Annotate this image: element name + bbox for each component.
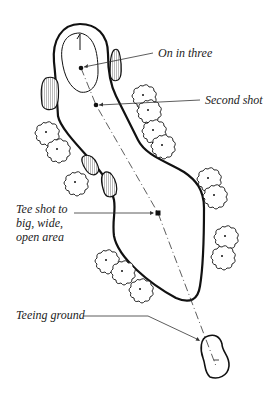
trees-right — [132, 85, 238, 270]
tee-shot-ball-marker — [156, 211, 161, 216]
label-tee-shot-line2: big, wide, — [16, 216, 63, 230]
label-tee-shot-line1: Tee shot to — [16, 202, 68, 216]
bunker-left-green — [41, 77, 58, 109]
bunker-fairway-left-1 — [82, 155, 99, 174]
second-shot-ball-marker — [94, 103, 99, 108]
flag-icon — [77, 34, 80, 50]
tee-box — [201, 335, 229, 378]
golf-hole-diagram: On in three Second shot Tee shot to big,… — [0, 0, 271, 398]
label-tee-shot-line3: open area — [16, 230, 64, 244]
approach-ball-marker — [79, 66, 84, 71]
bunker-fairway-left-2 — [102, 172, 117, 197]
label-on-in-three: On in three — [158, 46, 212, 60]
leader-teeing-ground — [83, 316, 199, 340]
label-teeing-ground: Teeing ground — [16, 308, 85, 322]
bunker-right-green — [110, 49, 121, 80]
label-second-shot: Second shot — [205, 93, 263, 107]
